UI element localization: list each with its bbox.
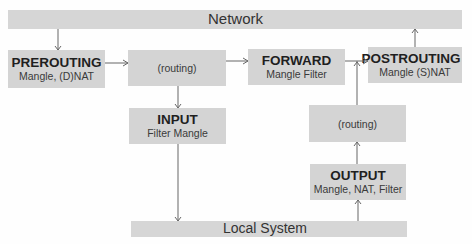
netfilter-diagram: Network PREROUTING Mangle, (D)NAT (routi… bbox=[0, 0, 472, 244]
connector-arrows bbox=[0, 0, 472, 244]
